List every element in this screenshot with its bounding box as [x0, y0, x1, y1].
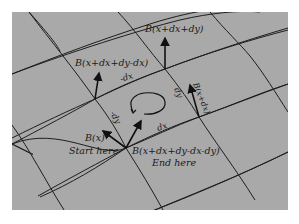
label-end-here: End here	[151, 157, 196, 168]
label-start-here: Start here	[69, 145, 119, 156]
parallel-transport-diagram: B(x+dx+dy-dx) B(x+dx+dy) B(x+dx) B(x) St…	[0, 0, 299, 224]
label-b-top-left: B(x+dx+dy-dx)	[74, 57, 149, 68]
label-b-start: B(x)	[84, 132, 105, 143]
label-b-end: B(x+dx+dy-dx-dy)	[131, 145, 220, 156]
label-b-top-right: B(x+dx+dy)	[144, 23, 204, 34]
